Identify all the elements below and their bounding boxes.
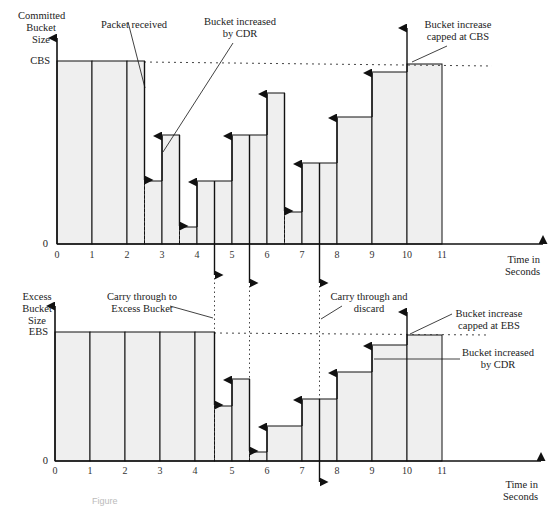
label-line: Seconds	[490, 266, 540, 278]
x-tick: 9	[370, 249, 375, 260]
label-line: Excess	[14, 291, 60, 303]
x-tick: 11	[437, 249, 447, 260]
label-line: Bucket	[18, 22, 64, 34]
top-zero-label: 0	[30, 238, 48, 250]
label-line: Seconds	[488, 491, 538, 503]
x-tick: 4	[195, 249, 200, 260]
bottom-zero-label: 0	[30, 455, 48, 467]
x-tick: 3	[160, 249, 165, 260]
x-tick: 2	[123, 465, 128, 476]
committed-bucket-chart	[57, 22, 543, 283]
carry-excess-annotation: Carry through to Excess Bucket	[102, 291, 182, 315]
x-tick: 5	[230, 249, 235, 260]
cbs-label: CBS	[24, 55, 50, 67]
x-tick: 10	[402, 465, 412, 476]
bottom-y-axis-label: Excess Bucket Size	[14, 291, 60, 327]
x-tick: 0	[53, 465, 58, 476]
x-tick: 2	[125, 249, 130, 260]
label-line: Carry through to	[102, 291, 182, 303]
label-line: by CDR	[458, 359, 538, 371]
label-line: discard	[329, 303, 409, 315]
cdr-annotation-top: Bucket increased by CDR	[200, 16, 280, 40]
packet-received-annotation: Packet received	[94, 19, 174, 31]
top-x-axis-label: Time in Seconds	[490, 254, 540, 278]
label-line: Bucket increased	[200, 16, 280, 28]
x-tick: 1	[90, 249, 95, 260]
ebs-label: EBS	[22, 326, 48, 338]
x-tick: 7	[300, 249, 305, 260]
label-line: Time in	[488, 479, 538, 491]
label-line: Carry through and	[329, 291, 409, 303]
x-tick: 7	[300, 465, 305, 476]
label-line: Committed	[18, 10, 64, 22]
label-line: Excess Bucket	[102, 303, 182, 315]
label-line: Bucket	[14, 303, 60, 315]
x-tick: 9	[370, 465, 375, 476]
top-y-axis-label: Committed Bucket Size	[18, 10, 64, 46]
label-line: by CDR	[200, 28, 280, 40]
label-line: capped at CBS	[418, 31, 498, 43]
cap-cbs-annotation: Bucket increase capped at CBS	[418, 19, 498, 43]
x-tick: 4	[193, 465, 198, 476]
x-tick: 0	[55, 249, 60, 260]
cap-ebs-annotation: Bucket increase capped at EBS	[449, 308, 529, 332]
label-line: Time in	[490, 254, 540, 266]
label-line: Bucket increased	[458, 347, 538, 359]
label-line: Bucket increase	[449, 308, 529, 320]
x-tick: 6	[265, 465, 270, 476]
label-line: Size	[18, 34, 64, 46]
figure-caption: Figure	[92, 496, 118, 506]
x-tick: 11	[437, 465, 447, 476]
x-tick: 1	[88, 465, 93, 476]
cdr-annotation-bottom: Bucket increased by CDR	[458, 347, 538, 371]
excess-bucket-fills	[55, 332, 442, 461]
label-line: Bucket increase	[418, 19, 498, 31]
x-tick: 3	[158, 465, 163, 476]
carry-discard-annotation: Carry through and discard	[329, 291, 409, 315]
x-tick: 6	[265, 249, 270, 260]
label-line: capped at EBS	[449, 320, 529, 332]
bottom-x-axis-label: Time in Seconds	[488, 479, 538, 503]
x-tick: 8	[335, 249, 340, 260]
x-tick: 8	[335, 465, 340, 476]
x-tick: 10	[402, 249, 412, 260]
token-bucket-diagram	[0, 0, 552, 507]
x-tick: 5	[230, 465, 235, 476]
